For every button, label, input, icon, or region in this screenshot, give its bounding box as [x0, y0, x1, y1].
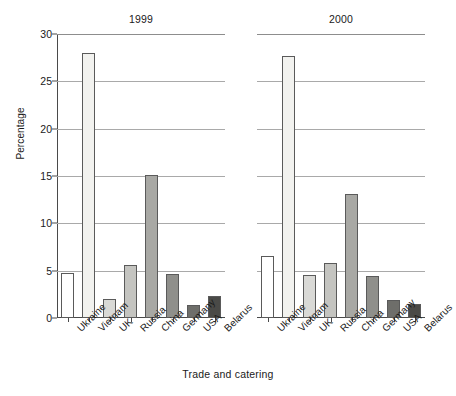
bar-group: [257, 34, 425, 318]
y-tick-mark: [52, 270, 57, 271]
x-tick-mark: [68, 318, 69, 322]
bar-vietnam: [282, 56, 295, 318]
y-tick-mark: [52, 81, 57, 82]
bar-group: [57, 34, 225, 318]
bar-ukraine: [61, 273, 74, 318]
y-tick-label: 25: [26, 75, 52, 87]
y-tick-label: 10: [26, 217, 52, 229]
y-tick-label: 30: [26, 28, 52, 40]
bar-chart: Percentage 051015202530 19992000 Ukraine…: [0, 0, 456, 396]
y-tick-mark: [52, 176, 57, 177]
bar-ukraine: [261, 256, 274, 318]
plot-area: [257, 34, 425, 318]
bar-vietnam: [82, 53, 95, 318]
y-tick-mark: [52, 34, 57, 35]
y-tick-label: 20: [26, 123, 52, 135]
bar-china: [345, 194, 358, 318]
y-tick-label: 5: [26, 265, 52, 277]
y-tick-mark: [52, 223, 57, 224]
y-axis-title: Percentage: [15, 74, 26, 194]
plot-area: [57, 34, 225, 318]
y-tick-mark: [52, 318, 57, 319]
x-axis-title: Trade and catering: [0, 368, 456, 380]
panel-title: 1999: [57, 13, 225, 25]
chart-panel-2000: 2000: [257, 0, 425, 396]
panel-title: 2000: [257, 13, 425, 25]
bar-china: [145, 175, 158, 318]
chart-panel-1999: 1999: [57, 0, 225, 396]
y-tick-mark: [52, 128, 57, 129]
x-tick-mark: [268, 318, 269, 322]
y-axis-ticks: 051015202530: [26, 0, 52, 396]
y-tick-label: 15: [26, 170, 52, 182]
